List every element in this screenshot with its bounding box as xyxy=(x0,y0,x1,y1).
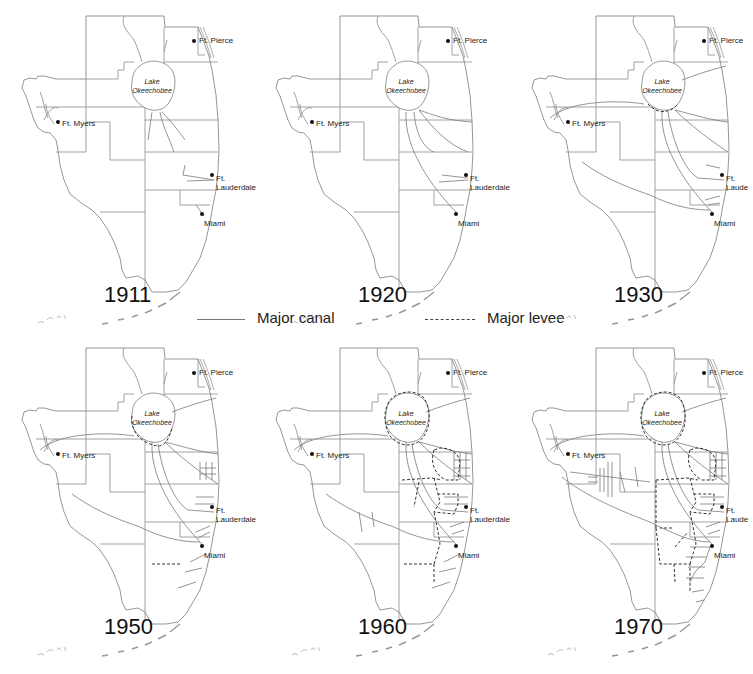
major-canal xyxy=(668,444,724,512)
major-canal xyxy=(439,180,468,182)
major-canal xyxy=(668,112,724,180)
major-canal xyxy=(550,102,644,118)
city-dot-icon xyxy=(310,452,314,456)
river xyxy=(550,424,558,450)
major-canal xyxy=(183,165,214,180)
city-label-ft-lauderdale: Ft. Lauderdale xyxy=(216,506,256,524)
major-canal xyxy=(178,582,196,588)
region-outline xyxy=(22,16,219,292)
major-canal xyxy=(708,530,720,534)
major-canal xyxy=(439,568,456,572)
city-label-ft-myers: Ft. Myers xyxy=(316,119,349,128)
city-dot-icon xyxy=(446,39,450,43)
city-dot-icon xyxy=(454,212,458,216)
city-label-ft-myers: Ft. Myers xyxy=(572,119,605,128)
river xyxy=(377,16,396,62)
major-canal xyxy=(160,112,174,152)
city-label-miami: Miami xyxy=(204,219,225,228)
city-label-miami: Miami xyxy=(714,219,735,228)
county-boundary xyxy=(180,190,210,205)
city-label-ft-pierce: Ft. Pierce xyxy=(453,36,487,45)
map-panel-1930: Lake OkeechobeeFt. PierceFt. MyersFt. La… xyxy=(510,0,753,334)
county-boundary xyxy=(674,372,677,384)
city-label-miami: Miami xyxy=(458,551,479,560)
region-outline xyxy=(22,348,219,624)
major-canal xyxy=(414,112,434,152)
major-canal xyxy=(675,110,728,152)
major-canal xyxy=(196,526,210,532)
major-canal xyxy=(148,112,152,140)
county-boundary xyxy=(418,40,421,52)
major-canal xyxy=(419,110,468,152)
major-canal xyxy=(72,494,200,542)
river xyxy=(377,348,396,394)
city-label-ft-lauderdale: Ft. Lauderdale xyxy=(470,174,510,192)
major-levee xyxy=(433,448,461,480)
year-label: 1950 xyxy=(104,614,153,640)
river xyxy=(294,92,302,118)
city-label-ft-myers: Ft. Myers xyxy=(316,451,349,460)
major-canal xyxy=(187,180,214,181)
river xyxy=(40,92,48,118)
river xyxy=(123,16,142,62)
major-canal xyxy=(454,452,470,480)
city-dot-icon xyxy=(192,39,196,43)
city-label-ft-myers: Ft. Myers xyxy=(572,451,605,460)
county-boundary xyxy=(610,439,655,544)
islets xyxy=(292,315,320,323)
major-canal xyxy=(588,462,612,497)
river xyxy=(633,348,652,394)
major-canal xyxy=(450,522,464,527)
major-canal xyxy=(40,434,134,450)
region-outline xyxy=(276,16,473,292)
year-label: 1970 xyxy=(614,614,663,640)
major-levee xyxy=(434,478,458,514)
city-dot-icon xyxy=(56,452,60,456)
city-dot-icon xyxy=(702,371,706,375)
lake-label: Lake Okeechobee xyxy=(376,77,436,95)
islets xyxy=(292,647,320,655)
river xyxy=(123,348,142,394)
city-label-ft-pierce: Ft. Pierce xyxy=(199,368,233,377)
region-outline xyxy=(276,348,473,624)
major-canal xyxy=(710,452,726,480)
map-panel-1920: Lake OkeechobeeFt. PierceFt. MyersFt. La… xyxy=(254,0,507,334)
city-dot-icon xyxy=(464,505,468,509)
major-canal xyxy=(562,477,710,542)
region-outline xyxy=(532,16,729,292)
city-dot-icon xyxy=(446,371,450,375)
city-label-ft-lauderdale: Ft. Laude xyxy=(726,174,748,192)
county-boundary xyxy=(164,40,167,52)
major-canal xyxy=(359,512,362,532)
city-label-ft-lauderdale: Ft. Laude xyxy=(726,506,748,524)
city-dot-icon xyxy=(200,544,204,548)
year-label: 1911 xyxy=(104,282,151,308)
map-panel-1950: Lake OkeechobeeFt. PierceFt. MyersFt. La… xyxy=(0,332,253,666)
major-canal xyxy=(690,547,710,582)
city-dot-icon xyxy=(454,544,458,548)
map-panel-1960: Lake OkeechobeeFt. PierceFt. MyersFt. La… xyxy=(254,332,507,666)
major-levee xyxy=(402,478,442,480)
river xyxy=(40,424,48,450)
city-dot-icon xyxy=(566,452,570,456)
city-dot-icon xyxy=(210,505,214,509)
major-canal xyxy=(432,582,450,588)
river xyxy=(294,424,302,450)
major-canal xyxy=(692,590,704,592)
city-dot-icon xyxy=(200,212,204,216)
city-dot-icon xyxy=(720,505,724,509)
major-canal xyxy=(185,568,202,572)
city-label-ft-myers: Ft. Myers xyxy=(62,119,95,128)
lake-label: Lake Okeechobee xyxy=(122,409,182,427)
county-boundary xyxy=(164,372,167,384)
major-canal xyxy=(662,112,714,214)
county-boundary xyxy=(674,40,677,52)
map-panel-1970: Lake OkeechobeeFt. PierceFt. MyersFt. La… xyxy=(510,332,753,666)
major-levee xyxy=(404,564,434,582)
city-label-ft-pierce: Ft. Pierce xyxy=(453,368,487,377)
islets xyxy=(38,315,66,323)
map-panel-1911: Lake OkeechobeeFt. PierceFt. MyersFt. La… xyxy=(0,0,253,334)
major-levee xyxy=(689,448,717,480)
county-boundary xyxy=(100,439,145,544)
city-dot-icon xyxy=(56,120,60,124)
